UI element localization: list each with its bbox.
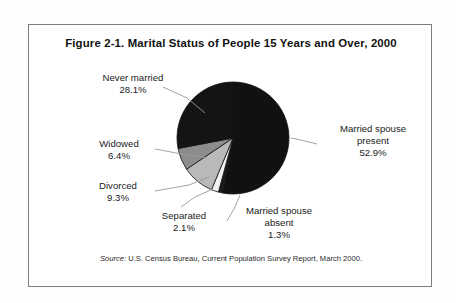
pie-label-married-spouse-present-name2: present (321, 135, 425, 147)
pie-label-married-spouse-absent-value: 1.3% (225, 229, 333, 241)
pie-label-married-spouse-absent-name: Married spouse (225, 205, 333, 217)
pie-chart-area: Never married 28.1% Widowed 6.4% Divorce… (29, 25, 433, 288)
pie-label-divorced-value: 9.3% (76, 192, 160, 204)
pie-label-never-married-name: Never married (81, 72, 185, 84)
pie-label-widowed: Widowed 6.4% (78, 138, 160, 162)
source-text: U.S. Census Bureau, Current Population S… (126, 254, 362, 263)
pie-label-married-spouse-present-name: Married spouse (321, 123, 425, 135)
pie-label-widowed-name: Widowed (78, 138, 160, 150)
pie-slice-group (177, 82, 289, 194)
pie-label-separated-value: 2.1% (141, 222, 227, 234)
pie-label-married-spouse-absent-name2: absent (225, 217, 333, 229)
figure-frame: Figure 2-1. Marital Status of People 15 … (28, 24, 432, 287)
pie-slice-never-married (177, 82, 233, 148)
pie-label-never-married-value: 28.1% (81, 84, 185, 96)
leader-line-separated (181, 189, 213, 207)
leader-line-married-present (291, 138, 317, 144)
pie-label-divorced: Divorced 9.3% (76, 180, 160, 204)
pie-label-separated: Separated 2.1% (141, 210, 227, 234)
pie-label-married-spouse-absent: Married spouse absent 1.3% (225, 205, 333, 242)
figure-container: Figure 2-1. Marital Status of People 15 … (0, 0, 456, 303)
pie-label-divorced-name: Divorced (76, 180, 160, 192)
pie-label-separated-name: Separated (141, 210, 227, 222)
figure-source-note: Source: U.S. Census Bureau, Current Popu… (29, 254, 433, 263)
pie-label-widowed-value: 6.4% (78, 150, 160, 162)
pie-label-never-married: Never married 28.1% (81, 72, 185, 96)
pie-label-married-spouse-present-value: 52.9% (321, 147, 425, 159)
pie-label-married-spouse-present: Married spouse present 52.9% (321, 123, 425, 160)
source-prefix: Source: (100, 254, 126, 263)
